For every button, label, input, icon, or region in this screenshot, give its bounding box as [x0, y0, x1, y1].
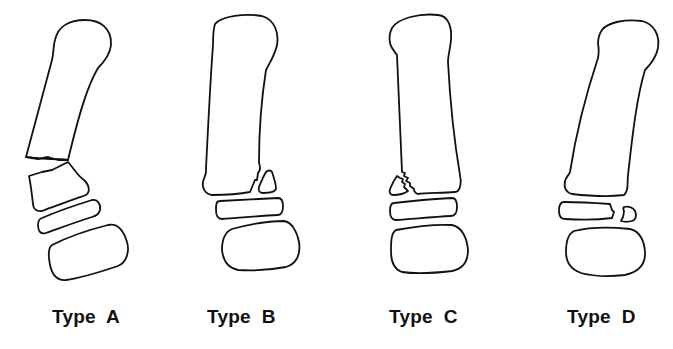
type-d-middle-phalanx [559, 202, 614, 220]
type-c-avulsion-fragment [390, 176, 408, 195]
type-d-avulsion-fragment [621, 207, 636, 222]
type-c-diagram [390, 15, 468, 274]
type-a-label: Type A [52, 306, 120, 328]
type-a-proximal-bone-shaft [26, 20, 111, 160]
type-b-label: Type B [207, 306, 276, 328]
type-b-diagram [203, 15, 300, 271]
type-d-diagram [559, 20, 658, 276]
type-a-distal-phalanx [49, 225, 128, 280]
type-a-diagram [26, 20, 128, 280]
type-a-middle-phalanx [38, 200, 100, 234]
type-b-distal-phalanx [222, 221, 299, 270]
type-c-distal-phalanx [391, 225, 468, 273]
type-b-avulsion-fragment [259, 171, 276, 194]
type-c-label: Type C [389, 306, 458, 328]
type-d-label: Type D [567, 306, 636, 328]
type-d-proximal-bone [565, 20, 659, 196]
type-c-proximal-bone [390, 15, 461, 194]
type-d-distal-phalanx [566, 228, 645, 276]
type-b-proximal-bone [203, 15, 278, 195]
type-b-middle-phalanx [216, 198, 283, 219]
type-c-middle-phalanx [390, 198, 457, 220]
fracture-diagram [0, 0, 673, 349]
